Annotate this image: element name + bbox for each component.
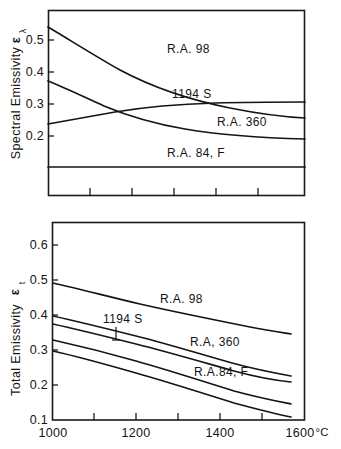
total-ytick-0.6: 0.6: [30, 238, 48, 252]
total-yaxis-symbol: ε: [8, 289, 22, 295]
total-ytick-0.2: 0.2: [30, 378, 48, 392]
spectral-emissivity-svg: Spectral Emissivity ε λ 0.5 0.4 0.3 0.2: [0, 0, 341, 210]
total-ytick-0.4: 0.4: [30, 308, 48, 322]
spectral-yaxis-symbol: ε: [9, 37, 23, 43]
curve-total-lowest: [53, 351, 291, 417]
spectral-emissivity-chart: Spectral Emissivity ε λ 0.5 0.4 0.3 0.2: [0, 0, 341, 210]
spectral-ytick-0.2: 0.2: [26, 129, 44, 143]
emissivity-figure: Spectral Emissivity ε λ 0.5 0.4 0.3 0.2: [0, 0, 341, 449]
curve-total-ra360: [53, 324, 291, 382]
spectral-x-ticks: [90, 188, 258, 195]
total-ytick-0.1: 0.1: [30, 413, 48, 427]
total-xtick-1200: 1200: [121, 426, 150, 440]
label-total-ra98: R.A. 98: [160, 292, 203, 306]
total-xtick-1600: 1600: [285, 426, 314, 440]
total-emissivity-svg: Total Emissivity ε t 0.6 0.5 0.4 0.3 0.2…: [0, 210, 341, 449]
spectral-ytick-0.5: 0.5: [26, 33, 44, 47]
label-total-1194s: 1194 S: [103, 312, 143, 326]
total-yaxis-title-text: Total Emissivity: [9, 304, 23, 396]
spectral-ytick-0.3: 0.3: [26, 97, 44, 111]
total-xtick-1000: 1000: [38, 426, 67, 440]
label-spectral-ra84f: R.A. 84, F: [167, 146, 225, 160]
total-ytick-0.5: 0.5: [30, 273, 48, 287]
total-ytick-0.3: 0.3: [30, 343, 48, 357]
curve-total-1194s: [53, 316, 291, 376]
total-yaxis-title: Total Emissivity ε t: [8, 281, 27, 396]
label-total-ra84f: R.A.84, F: [194, 365, 248, 379]
curve-total-ra84f: [53, 340, 291, 404]
curve-total-ra98: [53, 283, 291, 334]
total-plot-frame: [53, 223, 305, 421]
total-xaxis-unit: °C: [316, 426, 329, 438]
total-emissivity-chart: Total Emissivity ε t 0.6 0.5 0.4 0.3 0.2…: [0, 210, 341, 449]
label-spectral-ra360: R.A. 360: [217, 115, 267, 129]
label-total-ra360: R.A, 360: [190, 335, 240, 349]
spectral-yaxis-title-text: Spectral Emissivity: [9, 46, 23, 159]
spectral-ytick-0.4: 0.4: [26, 65, 44, 79]
spectral-y-ticks: [49, 40, 55, 136]
label-spectral-ra98: R.A. 98: [167, 42, 210, 56]
total-yaxis-subscript: t: [17, 281, 27, 284]
total-y-ticks: [53, 245, 59, 385]
total-x-ticks: [94, 413, 262, 420]
total-xtick-1400: 1400: [205, 426, 234, 440]
label-spectral-1194s: 1194 S: [172, 87, 212, 101]
